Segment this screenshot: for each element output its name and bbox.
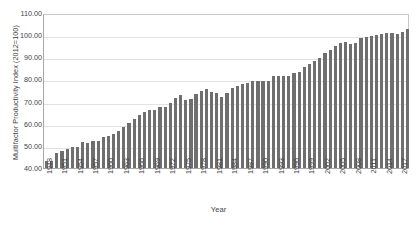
x-axis-tick-label: 1993	[278, 158, 286, 184]
x-axis-tick-label: 1951	[61, 158, 69, 184]
y-axis-tick-labels: 110.00100.0090.0080.0070.0060.0050.0040.…	[10, 0, 42, 226]
bar	[344, 42, 347, 168]
x-axis-tick-label: 2014	[386, 158, 394, 184]
bar	[349, 44, 352, 168]
bar	[267, 81, 270, 168]
bar	[272, 76, 275, 168]
x-axis-tick-label: 1969	[154, 158, 162, 184]
bar	[251, 81, 254, 168]
x-axis-tick-label: 2002	[324, 158, 332, 184]
bar	[318, 58, 321, 168]
bar	[359, 38, 362, 168]
bar	[86, 143, 89, 168]
bar	[303, 67, 306, 168]
bar	[231, 88, 234, 168]
bar	[261, 81, 264, 168]
bar	[225, 93, 228, 168]
y-axis-tick-label: 40.00	[10, 165, 42, 173]
bar	[256, 81, 259, 168]
bar	[236, 86, 239, 168]
bar	[179, 95, 182, 169]
bar	[329, 50, 332, 168]
bar	[396, 34, 399, 168]
x-axis-tick-label: 1975	[185, 158, 193, 184]
x-axis-tick-label: 1963	[123, 158, 131, 184]
y-axis-tick-label: 50.00	[10, 143, 42, 151]
bar	[241, 84, 244, 168]
y-axis-tick-label: 100.00	[10, 32, 42, 40]
x-axis-tick-label: 2011	[370, 158, 378, 184]
bar	[370, 36, 373, 168]
bar	[339, 43, 342, 168]
y-axis-tick-label: 80.00	[10, 76, 42, 84]
bar	[194, 94, 197, 168]
bar	[246, 83, 249, 168]
bar	[406, 29, 409, 168]
bar	[298, 72, 301, 168]
bar	[277, 76, 280, 168]
bar	[334, 46, 337, 168]
bar	[205, 89, 208, 168]
bar	[292, 73, 295, 168]
x-axis-tick-label: 1984	[231, 158, 239, 184]
x-axis-tick-label: 1987	[247, 158, 255, 184]
chart-container: Multifactor Productivity Index (2012=100…	[0, 0, 417, 226]
x-axis-tick-label: 1981	[216, 158, 224, 184]
x-axis-tick-label: 1957	[92, 158, 100, 184]
plot-area	[43, 14, 409, 169]
bar	[287, 76, 290, 168]
bar	[164, 107, 167, 168]
bar	[385, 33, 388, 168]
y-axis-tick-label: 110.00	[10, 10, 42, 18]
bar	[282, 76, 285, 168]
bar	[375, 35, 378, 168]
bar	[390, 33, 393, 168]
x-axis-tick-label: 1999	[308, 158, 316, 184]
x-axis-tick-label: 2005	[339, 158, 347, 184]
bar	[323, 53, 326, 168]
bar	[133, 119, 136, 168]
bar	[200, 91, 203, 169]
x-axis-title: Year	[0, 205, 417, 214]
bar	[55, 153, 58, 168]
bar-series	[44, 15, 408, 168]
x-axis-tick-label: 1972	[169, 158, 177, 184]
x-axis-tick-label: 1990	[262, 158, 270, 184]
bar	[365, 37, 368, 168]
bar	[401, 32, 404, 168]
x-axis-tick-label: 1948	[46, 158, 54, 184]
x-axis-tick-label: 1960	[107, 158, 115, 184]
x-axis-tick-label: 2017	[401, 158, 409, 184]
bar	[313, 61, 316, 168]
x-axis-tick-labels: 1948195119541957196019631966196919721975…	[43, 171, 409, 199]
bar	[210, 92, 213, 168]
x-axis-tick-label: 1954	[77, 158, 85, 184]
bar	[102, 137, 105, 168]
bar	[354, 43, 357, 168]
y-axis-tick-label: 60.00	[10, 121, 42, 129]
bar	[380, 34, 383, 168]
x-axis-tick-label: 2008	[355, 158, 363, 184]
bar	[117, 131, 120, 168]
bar	[215, 93, 218, 168]
bar	[308, 64, 311, 168]
y-axis-tick-label: 90.00	[10, 54, 42, 62]
y-axis-tick-label: 70.00	[10, 99, 42, 107]
x-axis-tick-label: 1996	[293, 158, 301, 184]
bar	[71, 147, 74, 168]
x-axis-tick-label: 1978	[200, 158, 208, 184]
bar	[148, 110, 151, 168]
x-axis-tick-label: 1966	[138, 158, 146, 184]
